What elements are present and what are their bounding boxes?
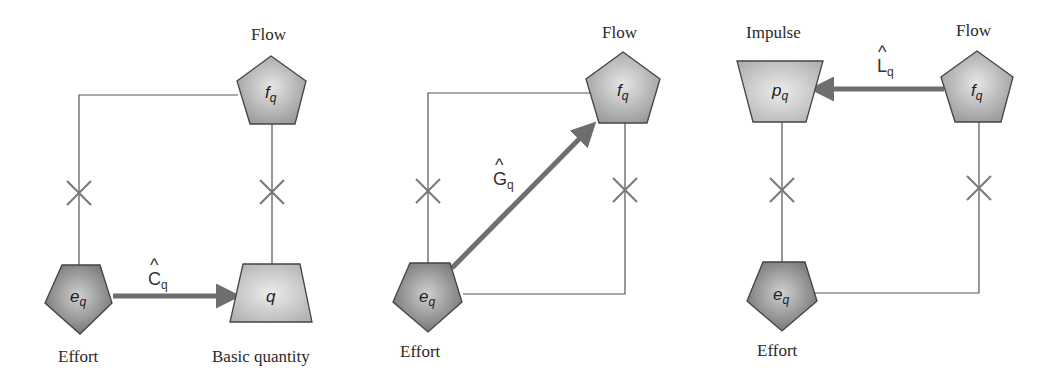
panel-capacitance: Cq ^ eq Effort q Basic quantity fq Flow — [45, 25, 312, 366]
impulse-label: Impulse — [746, 23, 801, 42]
panel-inductance: Lq ^ pq Impulse fq Flow eq Effort — [737, 21, 1013, 360]
flow-node — [586, 52, 660, 123]
quantity-label: Basic quantity — [212, 347, 310, 366]
wire-flow-effort — [463, 123, 625, 294]
operator-arrow — [452, 128, 590, 268]
flow-node — [237, 56, 306, 124]
wire-effort-flow — [79, 95, 238, 265]
hat-icon: ^ — [150, 255, 159, 275]
effort-label: Effort — [58, 347, 99, 366]
hat-icon: ^ — [878, 42, 887, 62]
quantity-symbol: q — [266, 287, 276, 306]
effort-label: Effort — [400, 342, 441, 361]
bond-graph-figure: Cq ^ eq Effort q Basic quantity fq Flow … — [0, 0, 1055, 385]
hat-icon: ^ — [495, 155, 504, 175]
flow-label: Flow — [956, 21, 992, 40]
effort-label: Effort — [757, 341, 798, 360]
wire-flow-effort — [815, 122, 979, 293]
flow-label: Flow — [602, 23, 638, 42]
panel-conductance: Gq ^ eq Effort fq Flow — [393, 23, 660, 361]
flow-node — [941, 51, 1013, 122]
flow-label: Flow — [251, 25, 287, 44]
